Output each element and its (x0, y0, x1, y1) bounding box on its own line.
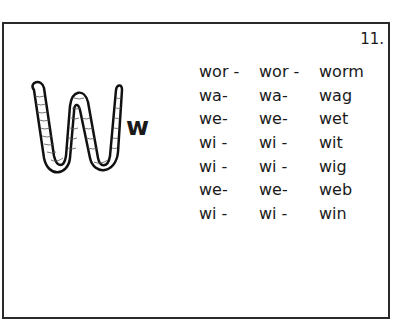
grid-row: wi -wi -wit (199, 131, 379, 155)
word: worm (319, 62, 379, 81)
syllable: wi - (199, 204, 259, 223)
word: wit (319, 133, 379, 152)
syllable: we- (259, 180, 319, 199)
page-number: 11. (360, 30, 384, 48)
syllable: wi - (199, 157, 259, 176)
grid-row: wi -wi -win (199, 202, 379, 226)
syllable: wor - (259, 62, 319, 81)
letter-w: w (126, 112, 149, 141)
word: web (319, 180, 379, 199)
syllable-grid: wor -wor -worm wa-wa-wag we-we-wet wi -w… (199, 60, 379, 225)
syllable: we- (259, 109, 319, 128)
syllable: wa- (199, 86, 259, 105)
syllable: we- (199, 109, 259, 128)
grid-row: we-we-web (199, 178, 379, 202)
syllable: wa- (259, 86, 319, 105)
worksheet-card: 11. w wor -wor -worm wa-wa-wag we-we-wet… (2, 22, 390, 319)
grid-row: we-we-wet (199, 107, 379, 131)
syllable: wor - (199, 62, 259, 81)
syllable: wi - (259, 204, 319, 223)
word: wag (319, 86, 379, 105)
grid-row: wor -wor -worm (199, 60, 379, 84)
word: win (319, 204, 379, 223)
word: wig (319, 157, 379, 176)
word: wet (319, 109, 379, 128)
grid-row: wi -wi -wig (199, 154, 379, 178)
worm-icon (24, 78, 128, 174)
syllable: wi - (199, 133, 259, 152)
syllable: wi - (259, 157, 319, 176)
grid-row: wa-wa-wag (199, 84, 379, 108)
syllable: we- (199, 180, 259, 199)
syllable: wi - (259, 133, 319, 152)
